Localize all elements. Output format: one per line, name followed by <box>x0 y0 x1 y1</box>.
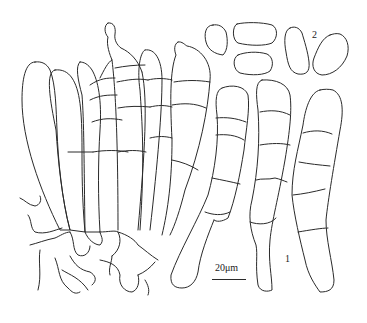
scale-bar-label: 20μm <box>215 262 238 273</box>
scale-bar <box>212 279 246 280</box>
conidia-group <box>205 23 348 75</box>
panel-label-1: 1 <box>285 253 290 264</box>
basal-stroma <box>20 196 158 295</box>
conidiophore-cluster <box>22 23 210 235</box>
illustration <box>0 0 367 323</box>
separate-conidiophores <box>171 80 342 292</box>
panel-label-2: 2 <box>312 29 317 40</box>
